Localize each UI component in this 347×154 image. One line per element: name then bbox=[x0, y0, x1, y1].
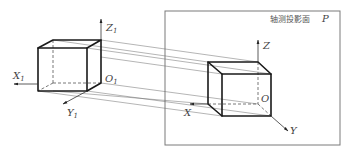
x-label: X bbox=[183, 107, 192, 118]
projection-lines bbox=[38, 40, 271, 116]
axonometric-projection-diagram: Z1 X1 Y1 O1 Z X Y O 轴测投影面 P bbox=[0, 0, 347, 154]
plane-title: 轴测投影面 bbox=[270, 14, 310, 24]
y1-label: Y1 bbox=[67, 107, 78, 120]
left-cube bbox=[38, 40, 101, 91]
o-label: O bbox=[261, 93, 269, 104]
plane-symbol: P bbox=[321, 13, 329, 24]
y-label: Y bbox=[290, 125, 298, 136]
o1-label: O1 bbox=[105, 73, 118, 86]
x1-label: X1 bbox=[12, 70, 25, 83]
right-axes bbox=[190, 40, 288, 131]
z-label: Z bbox=[262, 40, 271, 51]
projection-plane-frame bbox=[165, 11, 340, 145]
z1-label: Z1 bbox=[105, 22, 117, 35]
right-cube bbox=[208, 62, 271, 116]
y-axis bbox=[271, 116, 288, 131]
